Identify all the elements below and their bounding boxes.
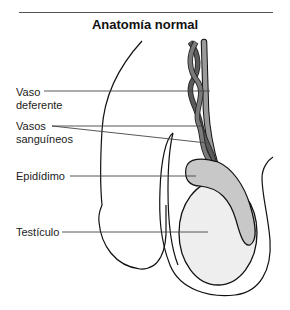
label-vas-deferens: Vaso deferente — [16, 86, 62, 112]
label-vas-deferens-line2: deferente — [16, 99, 62, 112]
label-testicle: Testículo — [16, 226, 59, 239]
leader-blood-vessels-2 — [52, 126, 207, 143]
anatomy-illustration — [0, 0, 290, 310]
label-blood-vessels-line1: Vasos — [16, 120, 73, 133]
penis-outline — [99, 41, 166, 269]
label-blood-vessels: Vasos sanguíneos — [16, 120, 73, 146]
scrotum-inner-edge — [168, 133, 178, 265]
label-epididymis: Epidídimo — [16, 170, 65, 183]
label-blood-vessels-line2: sanguíneos — [16, 133, 73, 146]
label-vas-deferens-line1: Vaso — [16, 86, 62, 99]
